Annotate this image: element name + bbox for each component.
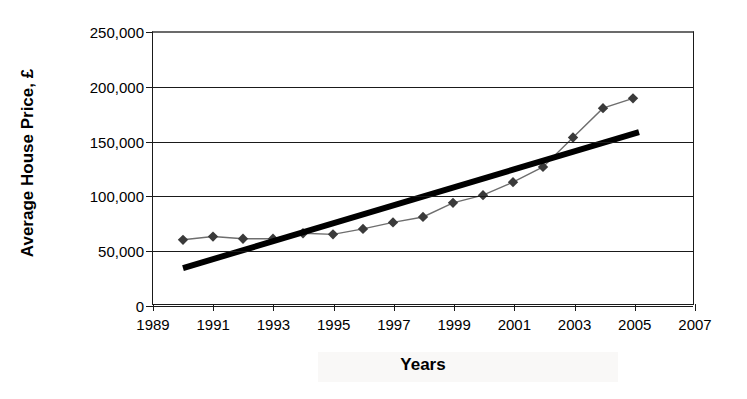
y-axis-tick-label: 50,000	[54, 243, 144, 260]
data-point-marker	[508, 177, 518, 187]
y-axis-tick-label: 0	[54, 298, 144, 315]
plot-area: 050,000100,000150,000200,000250,00019891…	[152, 31, 694, 305]
y-axis-tick-label: 250,000	[54, 24, 144, 41]
x-axis-tick-label: 1995	[304, 316, 364, 333]
gridline	[153, 87, 693, 88]
y-axis-title: Average House Price, £	[8, 8, 48, 318]
x-axis-tick-mark	[695, 304, 696, 311]
gridline	[153, 196, 693, 197]
x-axis-tick-mark	[213, 304, 214, 311]
y-axis-tick-label: 200,000	[54, 78, 144, 95]
data-point-marker	[358, 224, 368, 234]
x-axis-tick-mark	[394, 304, 395, 311]
y-axis-tick-mark	[146, 196, 153, 197]
gridline	[153, 142, 693, 143]
data-point-marker	[418, 212, 428, 222]
gridline	[153, 306, 693, 307]
x-axis-tick-mark	[273, 304, 274, 311]
x-axis-tick-mark	[334, 304, 335, 311]
data-point-marker	[388, 217, 398, 227]
x-axis-tick-label: 1991	[183, 316, 243, 333]
x-axis-tick-mark	[454, 304, 455, 311]
series-line	[183, 98, 633, 239]
data-point-marker	[628, 93, 638, 103]
x-axis-tick-label: 1999	[424, 316, 484, 333]
x-axis-tick-mark	[635, 304, 636, 311]
trendline	[183, 132, 639, 268]
x-axis-tick-mark	[575, 304, 576, 311]
data-point-marker	[478, 190, 488, 200]
y-axis-tick-label: 100,000	[54, 188, 144, 205]
x-axis-tick-mark	[153, 304, 154, 311]
x-axis-tick-label: 1993	[243, 316, 303, 333]
trendline-group	[183, 132, 639, 268]
x-axis-tick-label: 2007	[665, 316, 725, 333]
chart-canvas	[153, 32, 693, 304]
gridline	[153, 32, 693, 33]
x-axis-title: Years	[152, 355, 694, 375]
y-axis-tick-mark	[146, 87, 153, 88]
y-axis-tick-label: 150,000	[54, 133, 144, 150]
x-axis-tick-label: 2003	[545, 316, 605, 333]
data-series-group	[178, 93, 638, 245]
data-point-marker	[238, 234, 248, 244]
x-axis-tick-label: 2005	[605, 316, 665, 333]
x-axis-tick-label: 1997	[364, 316, 424, 333]
y-axis-tick-mark	[146, 306, 153, 307]
chart-page: Average House Price, £ 050,000100,000150…	[0, 0, 747, 399]
y-axis-tick-mark	[146, 142, 153, 143]
data-point-marker	[328, 229, 338, 239]
x-axis-tick-label: 1989	[123, 316, 183, 333]
data-point-marker	[208, 231, 218, 241]
x-axis-tick-mark	[514, 304, 515, 311]
y-axis-tick-mark	[146, 32, 153, 33]
x-axis-tick-label: 2001	[484, 316, 544, 333]
data-point-marker	[178, 235, 188, 245]
gridline	[153, 251, 693, 252]
data-point-marker	[448, 198, 458, 208]
y-axis-tick-mark	[146, 251, 153, 252]
